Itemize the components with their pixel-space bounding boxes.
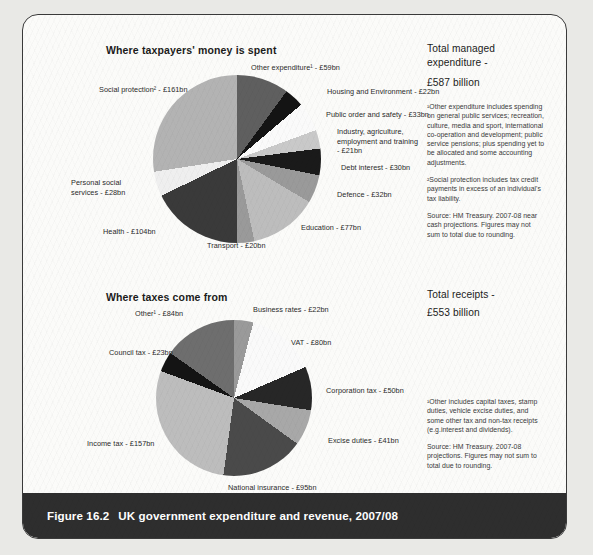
revenue-total: Total receipts - £553 billion — [427, 288, 545, 320]
expenditure-total-line1: Total managed — [427, 42, 545, 56]
revenue-label-business-rates: Business rates - £22bn — [253, 305, 329, 315]
expenditure-label-industry-text: Industry, agriculture, employment and tr… — [337, 127, 418, 155]
revenue-label-corporation-tax: Corporation tax - £50bn — [326, 386, 404, 396]
revenue-label-national-insurance: National insurance - £95bn — [228, 483, 317, 493]
revenue-label-business-rates-text: Business rates - £22bn — [253, 305, 329, 314]
revenue-total-value: £553 billion — [427, 306, 545, 320]
revenue-source: Source: HM Treasury. 2007-08 projections… — [427, 442, 545, 470]
expenditure-label-transport-text: Transport - £20bn — [207, 241, 266, 250]
expenditure-total-line2: expenditure - — [427, 56, 545, 70]
revenue-label-vat: VAT - £80bn — [291, 338, 331, 348]
revenue-label-income-tax-text: Income tax - £157bn — [87, 439, 154, 448]
expenditure-note-1: ¹Other expenditure includes spending on … — [427, 102, 545, 167]
expenditure-label-debt-interest-text: Debt interest - £30bn — [341, 163, 410, 172]
expenditure-label-personal-social: Personal social services - £28bn — [71, 178, 133, 197]
expenditure-heading: Where taxpayers' money is spent — [106, 44, 277, 56]
revenue-label-other-text: Other¹ - £84bn — [135, 309, 183, 318]
expenditure-label-housing: Housing and Environment - £22bn — [327, 87, 439, 97]
expenditure-label-defence-text: Defence - £32bn — [337, 190, 392, 199]
revenue-label-excise-duties-text: Excise duties - £41bn — [328, 436, 399, 445]
expenditure-label-health: Health - £104bn — [103, 227, 156, 237]
expenditure-label-social-protection: Social protection² - £161bn — [99, 85, 188, 95]
expenditure-label-health-text: Health - £104bn — [103, 227, 156, 236]
revenue-pie-chart — [156, 320, 312, 476]
expenditure-label-other-text: Other expenditure¹ - £59bn — [251, 63, 340, 72]
expenditure-label-industry: Industry, agriculture, employment and tr… — [337, 127, 419, 156]
expenditure-pie-chart — [153, 75, 321, 243]
figure-caption: Figure 16.2UK government expenditure and… — [47, 509, 398, 522]
revenue-label-national-insurance-text: National insurance - £95bn — [228, 483, 317, 492]
expenditure-source: Source: HM Treasury. 2007-08 near cash p… — [427, 211, 545, 239]
revenue-label-council-tax: Council tax - £23bn — [109, 348, 173, 358]
revenue-note-1: ¹Other includes capital taxes, stamp dut… — [427, 397, 545, 434]
revenue-label-vat-text: VAT - £80bn — [291, 338, 331, 347]
revenue-panel: Where taxes come from Business rates - £… — [23, 262, 566, 490]
expenditure-total-value: £587 billion — [427, 76, 545, 90]
expenditure-label-debt-interest: Debt interest - £30bn — [341, 163, 410, 173]
revenue-total-line1: Total receipts - — [427, 288, 545, 302]
expenditure-label-transport: Transport - £20bn — [207, 241, 266, 251]
expenditure-total: Total managed expenditure - £587 billion — [427, 42, 545, 90]
expenditure-label-defence: Defence - £32bn — [337, 190, 392, 200]
expenditure-label-education-text: Education - £77bn — [301, 223, 361, 232]
revenue-label-excise-duties: Excise duties - £41bn — [328, 436, 399, 446]
figure-number: Figure 16.2 — [47, 509, 109, 522]
expenditure-label-education: Education - £77bn — [301, 223, 361, 233]
expenditure-label-public-order: Public order and safety - £33bn — [326, 110, 429, 120]
revenue-label-council-tax-text: Council tax - £23bn — [109, 348, 173, 357]
expenditure-label-social-protection-text: Social protection² - £161bn — [99, 85, 188, 94]
revenue-pie — [156, 320, 312, 476]
figure-caption-text: UK government expenditure and revenue, 2… — [118, 509, 398, 522]
revenue-heading: Where taxes come from — [106, 291, 228, 303]
expenditure-label-personal-social-text: Personal social services - £28bn — [71, 178, 125, 197]
expenditure-panel: Where taxpayers' money is spent Other ex… — [23, 15, 566, 270]
expenditure-label-public-order-text: Public order and safety - £33bn — [326, 110, 429, 119]
expenditure-label-other: Other expenditure¹ - £59bn — [251, 63, 340, 73]
figure-card: Where taxpayers' money is spent Other ex… — [22, 14, 567, 539]
expenditure-side-column: Total managed expenditure - £587 billion… — [427, 42, 545, 247]
revenue-side-column: Total receipts - £553 billion ¹Other inc… — [427, 288, 545, 478]
expenditure-note-2: ²Social protection includes tax credit p… — [427, 175, 545, 203]
expenditure-pie — [153, 75, 321, 243]
figure-caption-bar: Figure 16.2UK government expenditure and… — [23, 493, 566, 538]
revenue-label-income-tax: Income tax - £157bn — [87, 439, 154, 449]
revenue-label-other: Other¹ - £84bn — [135, 309, 183, 319]
expenditure-label-housing-text: Housing and Environment - £22bn — [327, 87, 439, 96]
revenue-label-corporation-tax-text: Corporation tax - £50bn — [326, 386, 404, 395]
